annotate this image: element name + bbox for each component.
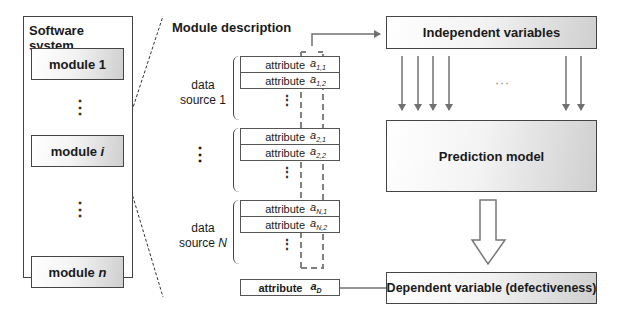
data-source-n-label: data source N [178, 221, 228, 251]
attribute-aN2[interactable]: attribute aN,2 [240, 216, 340, 233]
module-1-label: module 1 [49, 57, 106, 72]
module-i[interactable]: module i [31, 135, 124, 167]
independent-variables-label: Independent variables [423, 25, 560, 40]
module-i-label: module [51, 144, 101, 159]
data-source-ellipsis-label: ⋮ [190, 147, 210, 162]
dependent-variable-box[interactable]: Dependent variable (defectiveness) [386, 272, 597, 304]
arrows-ellipsis: ··· [495, 76, 510, 90]
attribute-a12[interactable]: attribute a1,2 [240, 72, 340, 89]
modules-ellipsis-bottom: ⋮ [70, 200, 90, 218]
connector-to-independent [312, 34, 380, 46]
data-source-1-label: data source 1 [178, 78, 228, 108]
prediction-model-box[interactable]: Prediction model [386, 120, 597, 192]
attribute-aD[interactable]: attribute aD [240, 279, 340, 296]
attribute-aN1[interactable]: attribute aN,1 [240, 200, 340, 217]
output-hollow-arrow [472, 200, 505, 264]
variable-arrows [402, 56, 581, 110]
module-n-index: n [98, 265, 106, 280]
module-1[interactable]: module 1 [31, 48, 124, 80]
attribute-a21[interactable]: attribute a2,1 [240, 128, 340, 145]
attribute-a22[interactable]: attribute a2,2 [240, 144, 340, 161]
prediction-model-label: Prediction model [439, 149, 544, 164]
dependent-variable-label: Dependent variable (defectiveness) [387, 281, 597, 295]
module-description-title: Module description [172, 20, 291, 35]
attribute-a11[interactable]: attribute a1,1 [240, 56, 340, 73]
modules-ellipsis-top: ⋮ [70, 98, 90, 116]
independent-variables-box[interactable]: Independent variables [386, 16, 597, 49]
attributes-ellipsis-n: ⋮ [280, 237, 292, 251]
module-n[interactable]: module n [31, 256, 124, 288]
attributes-ellipsis-1: ⋮ [280, 93, 292, 107]
module-n-label: module [49, 265, 99, 280]
attributes-ellipsis-2: ⋮ [280, 165, 292, 179]
module-i-index: i [101, 144, 105, 159]
